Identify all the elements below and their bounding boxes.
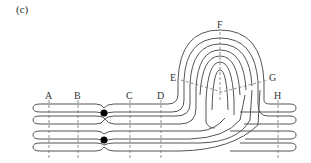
locus-line-eg [181, 80, 268, 92]
label-g: G [269, 73, 276, 83]
label-a: A [45, 91, 52, 101]
centromere-top [101, 110, 108, 117]
label-d: D [157, 91, 164, 101]
label-b: B [74, 91, 81, 101]
label-e: E [170, 73, 176, 83]
label-c: C [126, 91, 133, 101]
inversion-loop-diagram [0, 0, 311, 163]
chromatid-top-1 [33, 104, 104, 115]
label-f: F [217, 20, 223, 30]
centromere-bottom [101, 137, 108, 144]
label-h: H [274, 91, 281, 101]
